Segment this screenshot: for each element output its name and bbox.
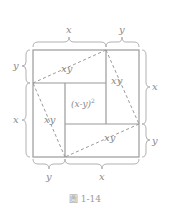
- bottom-brace-y: [33, 159, 65, 169]
- left-label-y: y: [12, 60, 19, 71]
- bottom-label-x: x: [99, 171, 105, 182]
- center-base: (x-y): [71, 99, 92, 109]
- square-decomposition-diagram: x y y x y x x y xy xy xy xy (x-y)2 圖: [0, 0, 170, 209]
- diagonal-right: [106, 50, 139, 124]
- top-braces: x y: [33, 24, 139, 47]
- top-brace-y: [106, 37, 139, 47]
- right-braces: x y: [142, 50, 158, 157]
- region-label-left: xy: [44, 114, 56, 125]
- center-exponent: 2: [91, 97, 95, 104]
- left-label-x: x: [13, 114, 19, 125]
- bottom-label-y: y: [45, 171, 52, 182]
- right-brace-x: [142, 50, 150, 124]
- region-label-top: xy: [61, 63, 73, 74]
- top-label-y: y: [118, 24, 125, 35]
- left-brace-y: [22, 50, 30, 83]
- diagonal-bottom: [65, 124, 139, 157]
- region-label-bottom: xy: [104, 132, 116, 143]
- bottom-brace-x: [65, 159, 139, 169]
- right-label-x: x: [152, 81, 158, 92]
- figure-caption: 圖 1-14: [69, 194, 101, 204]
- right-brace-y: [142, 124, 150, 157]
- top-brace-x: [33, 37, 106, 47]
- right-label-y: y: [151, 135, 158, 146]
- left-braces: y x: [12, 50, 30, 157]
- region-label-center: (x-y)2: [71, 97, 95, 109]
- region-label-right: xy: [111, 75, 123, 86]
- bottom-braces: y x: [33, 159, 139, 182]
- left-brace-x: [22, 83, 30, 157]
- top-label-x: x: [66, 24, 72, 35]
